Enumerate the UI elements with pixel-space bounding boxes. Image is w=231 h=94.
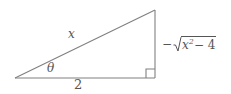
theta-angle-label: θ [47,62,54,74]
radicand-variable: x [182,38,189,52]
radicand-text: x2− 4 [181,36,216,52]
triangle-hypotenuse-line [15,10,155,78]
trigonometry-triangle-figure: x 2 θ − x2− 4 [0,0,231,94]
vertical-leg-expression-label: − x2− 4 [162,36,216,52]
right-angle-marker-icon [146,69,155,78]
base-length-label: 2 [74,78,82,91]
radicand-remainder: − 4 [194,38,216,52]
radical-expression: x2− 4 [173,36,216,52]
hypotenuse-label: x [68,28,75,40]
minus-sign-glyph: − [162,38,172,50]
